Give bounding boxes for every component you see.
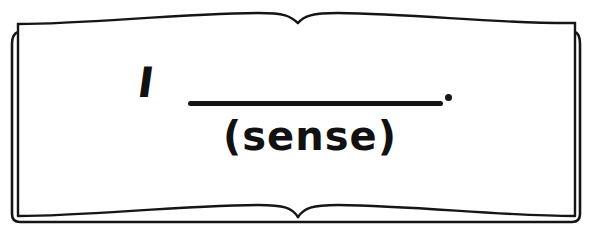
sentence-period: [445, 94, 452, 101]
verb-hint: (sense): [0, 114, 591, 158]
answer-blank-line[interactable]: [188, 101, 443, 106]
worksheet-card: I (sense): [0, 0, 591, 230]
sentence-subject: I: [135, 62, 157, 104]
